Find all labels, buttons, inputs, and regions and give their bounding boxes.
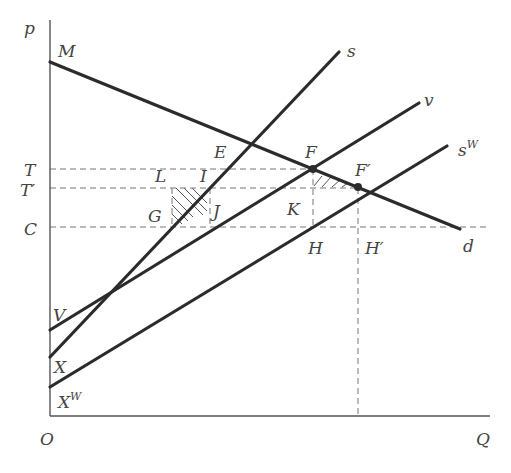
y-axis-label: p	[24, 18, 35, 38]
label-T: T	[24, 160, 37, 180]
label-C: C	[24, 219, 37, 239]
label-X: X	[52, 357, 67, 377]
label-K: K	[286, 199, 301, 219]
world-supply-curve	[50, 146, 447, 387]
hatched-area-lig	[172, 188, 207, 224]
label-d: d	[463, 236, 474, 256]
economics-diagram: p Q O T T′ C M d s X v V sW XW E F F′ L …	[0, 0, 511, 473]
label-F: F	[304, 142, 318, 162]
label-sW: sW	[458, 138, 480, 160]
label-F-prime: F′	[354, 160, 371, 180]
label-XW: XW	[56, 390, 83, 412]
label-H-prime: H′	[364, 238, 384, 258]
point-F-prime-dot	[354, 183, 362, 191]
label-T-prime: T′	[20, 180, 35, 200]
x-axis-label: Q	[476, 429, 490, 449]
label-s: s	[347, 41, 356, 61]
label-G: G	[148, 206, 162, 226]
label-H: H	[307, 238, 324, 258]
origin-label: O	[40, 429, 54, 449]
label-I: I	[199, 166, 207, 186]
label-L: L	[154, 166, 166, 186]
label-E: E	[213, 142, 227, 162]
label-M: M	[57, 41, 76, 61]
label-J: J	[210, 201, 221, 221]
label-V: V	[53, 305, 67, 325]
label-v: v	[424, 90, 434, 110]
point-F-dot	[309, 165, 317, 173]
